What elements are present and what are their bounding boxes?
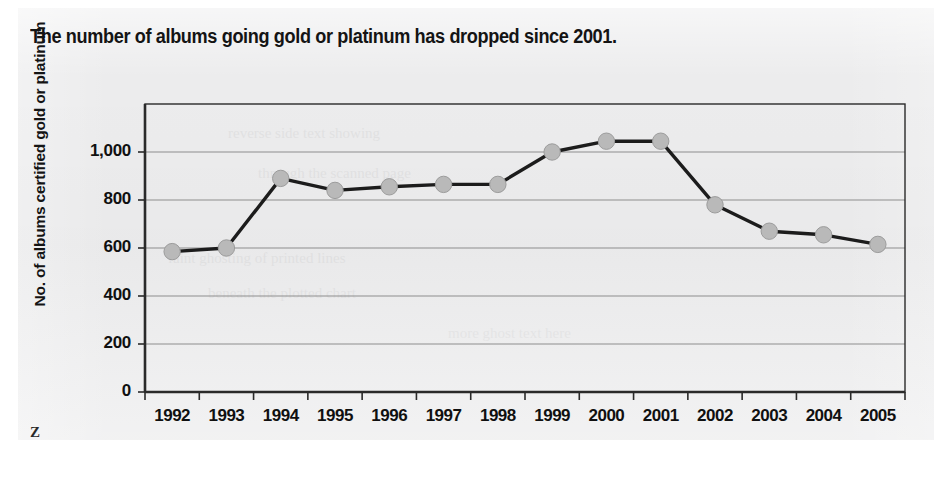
data-point-marker: [381, 179, 397, 195]
data-point-marker: [870, 236, 886, 252]
line-chart-plot: [0, 0, 949, 477]
data-point-marker: [544, 144, 560, 160]
data-point-marker: [707, 197, 723, 213]
data-point-marker: [327, 182, 343, 198]
data-point-marker: [598, 133, 614, 149]
chart-figure: reverse side text showing through the sc…: [0, 0, 949, 477]
data-point-marker: [761, 223, 777, 239]
data-point-marker: [815, 227, 831, 243]
data-point-marker: [435, 176, 451, 192]
data-point-marker: [490, 176, 506, 192]
data-point-marker: [164, 243, 180, 259]
data-point-marker: [653, 133, 669, 149]
data-point-marker: [218, 240, 234, 256]
data-point-marker: [273, 170, 289, 186]
gridlines: [138, 152, 905, 392]
